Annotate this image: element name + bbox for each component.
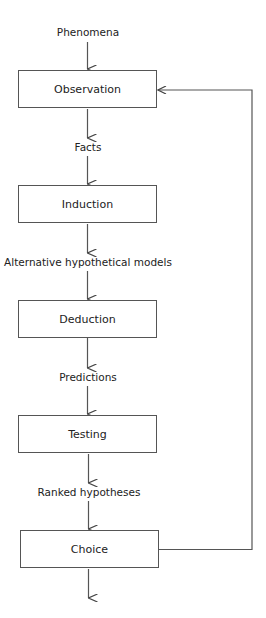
- step-testing: Testing: [18, 415, 157, 453]
- input-label-phenomena: Phenomena: [0, 26, 176, 38]
- edge-label-facts: Facts: [0, 141, 176, 153]
- step-label: Induction: [62, 198, 113, 211]
- step-observation: Observation: [18, 70, 157, 108]
- edge-label-alternative-models: Alternative hypothetical models: [0, 256, 176, 268]
- step-label: Choice: [71, 543, 108, 556]
- step-label: Deduction: [59, 313, 115, 326]
- step-induction: Induction: [18, 185, 157, 223]
- step-label: Testing: [68, 428, 107, 441]
- step-deduction: Deduction: [18, 300, 157, 338]
- edge-label-ranked-hypotheses: Ranked hypotheses: [1, 486, 177, 498]
- step-label: Observation: [54, 83, 121, 96]
- edge-label-predictions: Predictions: [0, 371, 176, 383]
- step-choice: Choice: [20, 530, 159, 568]
